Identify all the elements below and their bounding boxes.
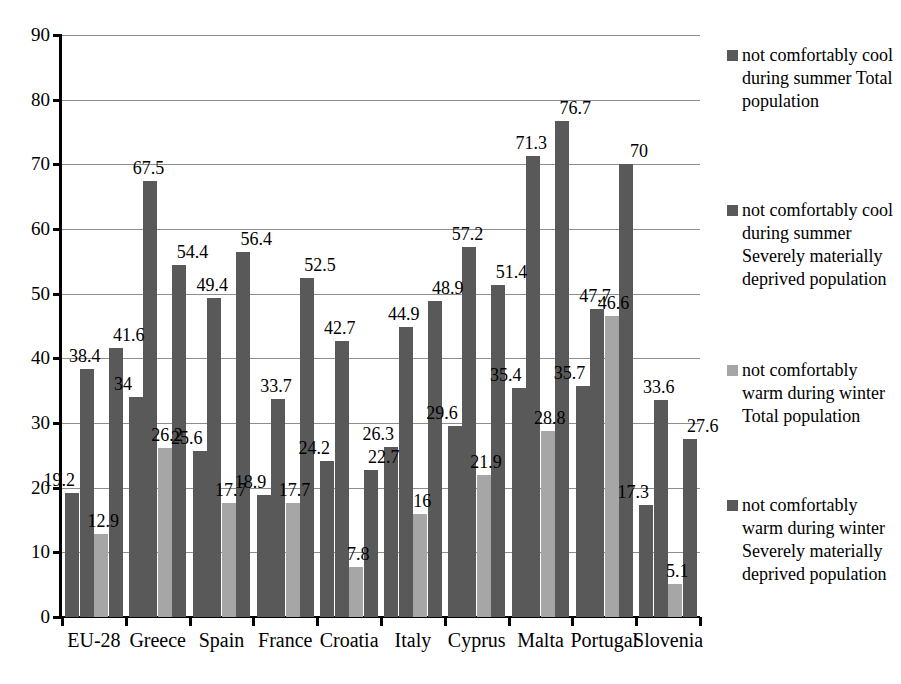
bar-value-label: 70	[630, 142, 648, 160]
bar	[65, 493, 79, 617]
bar-value-label: 5.1	[666, 562, 689, 580]
bar	[286, 503, 300, 617]
x-axis-tick	[316, 617, 319, 626]
x-axis-label-portugal: Portugal	[570, 629, 638, 651]
bar-value-label: 41.6	[113, 326, 145, 344]
bar-value-label: 52.5	[304, 256, 336, 274]
bar-value-label: 35.7	[554, 364, 586, 382]
y-axis-label: 40	[4, 348, 50, 367]
y-axis-tick	[53, 422, 62, 425]
bar	[320, 461, 334, 617]
bar	[271, 399, 285, 617]
bar-group	[193, 35, 251, 617]
bar-value-label: 7.8	[347, 545, 370, 563]
bar	[576, 386, 590, 617]
bar	[541, 431, 555, 617]
bar	[80, 369, 94, 617]
x-axis-label-malta: Malta	[517, 629, 564, 651]
legend-item[interactable]: not comfortably warm during winter Sever…	[727, 494, 895, 586]
x-axis-label-italy: Italy	[395, 629, 432, 651]
bar-value-label: 21.9	[470, 453, 502, 471]
y-axis-tick	[53, 357, 62, 360]
legend-label: not comfortably cool during summer Total…	[742, 44, 895, 113]
bar	[462, 247, 476, 617]
bar	[399, 327, 413, 617]
bar	[491, 285, 505, 617]
x-axis-tick	[571, 617, 574, 626]
bar	[94, 534, 108, 617]
y-axis-label: 70	[4, 154, 50, 173]
bar	[193, 451, 207, 617]
y-axis-label: 90	[4, 25, 50, 44]
bar-value-label: 54.4	[177, 243, 209, 261]
bar	[654, 400, 668, 617]
bar-value-label: 67.5	[133, 159, 165, 177]
legend-swatch-icon	[727, 205, 738, 216]
bar-value-label: 33.6	[643, 378, 675, 396]
y-axis-label: 10	[4, 542, 50, 561]
y-axis-labels: 9080706050403020100	[0, 0, 50, 684]
x-axis-tick	[635, 617, 638, 626]
plot-area: 19.238.412.941.63467.526.254.425.649.417…	[62, 35, 700, 617]
x-axis-label-greece: Greece	[129, 629, 186, 651]
bar-value-label: 35.4	[490, 366, 522, 384]
bar	[619, 164, 633, 617]
bar	[413, 514, 427, 617]
bar-value-label: 49.4	[197, 276, 229, 294]
x-axis-tick	[380, 617, 383, 626]
x-axis-tick	[252, 617, 255, 626]
legend-item[interactable]: not comfortably warm during winter Total…	[727, 359, 895, 428]
bar	[129, 397, 143, 617]
x-axis-label-cyprus: Cyprus	[448, 629, 506, 651]
legend-label: not comfortably cool during summer Sever…	[742, 199, 895, 291]
legend-swatch-icon	[727, 500, 738, 511]
bar	[158, 448, 172, 617]
x-axis-label-spain: Spain	[199, 629, 245, 651]
bar	[349, 567, 363, 617]
bar-value-label: 18.9	[235, 473, 267, 491]
x-axis-label-croatia: Croatia	[320, 629, 379, 651]
y-axis-tick	[53, 551, 62, 554]
bar-group	[639, 35, 697, 617]
bar-group	[257, 35, 315, 617]
bar	[207, 298, 221, 617]
bar-value-label: 12.9	[87, 512, 119, 530]
bar-group	[384, 35, 442, 617]
x-axis-tick	[189, 617, 192, 626]
x-axis-tick	[699, 617, 702, 626]
y-axis-label: 60	[4, 219, 50, 238]
bar-value-label: 48.9	[432, 279, 464, 297]
bar-value-label: 16	[413, 492, 431, 510]
bar-value-label: 42.7	[324, 319, 356, 337]
bar	[222, 503, 236, 617]
y-axis-label: 0	[4, 607, 50, 626]
bar	[526, 156, 540, 617]
x-axis-tick	[444, 617, 447, 626]
bar-value-label: 17.3	[618, 483, 650, 501]
y-axis-label: 50	[4, 284, 50, 303]
bar	[448, 426, 462, 617]
y-axis-label: 30	[4, 413, 50, 432]
bar	[143, 181, 157, 618]
y-axis-tick	[53, 293, 62, 296]
bar-value-label: 76.7	[560, 99, 592, 117]
y-axis-tick	[53, 99, 62, 102]
bar-value-label: 27.6	[687, 417, 719, 435]
bar-group	[448, 35, 506, 617]
bar-group	[512, 35, 570, 617]
legend-item[interactable]: not comfortably cool during summer Total…	[727, 44, 895, 113]
x-axis-label-eu-28: EU-28	[67, 629, 120, 651]
legend-item[interactable]: not comfortably cool during summer Sever…	[727, 199, 895, 291]
bar-value-label: 44.9	[388, 305, 420, 323]
legend-label: not comfortably warm during winter Sever…	[742, 494, 895, 586]
bar-value-label: 24.2	[299, 439, 331, 457]
bar-value-label: 19.2	[43, 471, 75, 489]
bar	[639, 505, 653, 617]
legend-label: not comfortably warm during winter Total…	[742, 359, 895, 428]
bar-value-label: 57.2	[452, 225, 484, 243]
bar	[477, 475, 491, 617]
x-axis-label-france: France	[258, 629, 312, 651]
x-axis-tick	[61, 617, 64, 626]
bar	[512, 388, 526, 617]
bar-value-label: 22.7	[368, 448, 400, 466]
